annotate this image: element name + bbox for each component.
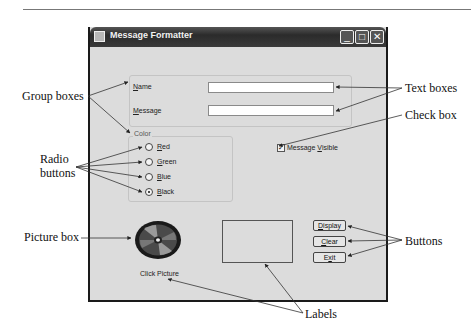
callout-arrows [0,0,471,334]
